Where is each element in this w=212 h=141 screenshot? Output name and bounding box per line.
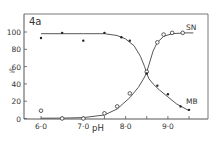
x-axis-label: pH [92, 123, 104, 133]
mb-data-point [129, 39, 131, 41]
x-tick-label: 7·0 [77, 122, 89, 131]
mb-data-point [179, 105, 181, 107]
sn-data-point [115, 105, 119, 109]
y-tick-label: 20 [11, 97, 21, 106]
sn-data-point [82, 117, 86, 121]
y-tick-label: 100 [7, 28, 22, 37]
legend-mb-label: MB [186, 97, 198, 106]
mb-data-point [156, 84, 158, 86]
legend-sn-label: SN [186, 23, 196, 32]
mb-data-point [61, 32, 63, 34]
mb-data-point [120, 36, 122, 38]
sn-data-point [181, 31, 185, 35]
mb-data-point [167, 93, 169, 95]
sn-data-point [170, 31, 174, 35]
mb-data-point [82, 39, 84, 41]
sn-data-point [128, 92, 132, 96]
mb-data-point [40, 37, 42, 39]
y-tick-label: 40 [11, 80, 21, 89]
x-tick-label: 6·0 [35, 122, 47, 131]
y-axis-label: % [9, 67, 15, 74]
sn-data-point [103, 112, 107, 116]
mb-data-point [188, 109, 190, 111]
sn-data-point [39, 109, 43, 113]
mb-data-point [103, 32, 105, 34]
x-tick-label: 8·0 [120, 122, 132, 131]
panel-label: 4a [29, 16, 42, 27]
data-points [39, 31, 190, 120]
sn-data-point [156, 41, 160, 45]
x-tick-label: 9·0 [162, 122, 174, 131]
plot-frame [24, 14, 208, 119]
mb-data-point [146, 72, 148, 74]
y-tick-label: 80 [11, 45, 21, 54]
y-tick-label: 0 [16, 115, 21, 124]
sn-data-point [162, 33, 166, 37]
mb-fit-curve [41, 34, 189, 111]
chart: 0204060801006·07·08·09·0 4a SN MB pH % [0, 0, 212, 141]
sn-data-point [60, 117, 64, 121]
